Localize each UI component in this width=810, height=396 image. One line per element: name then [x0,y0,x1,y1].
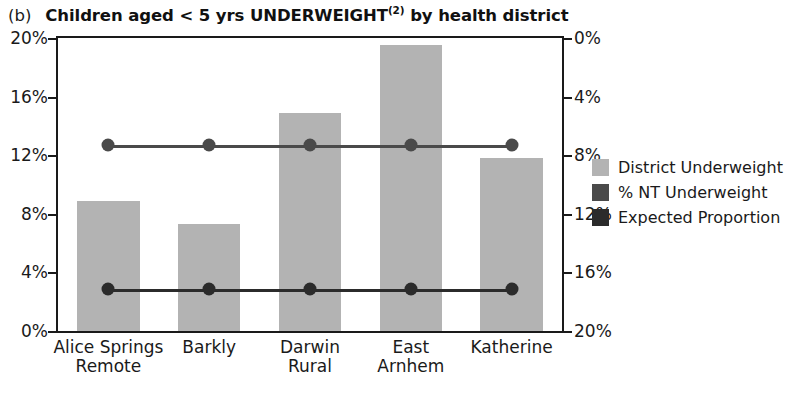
y-tick-mark-left [48,331,56,333]
legend-item: District Underweight [592,155,806,180]
y-tick-mark-right [564,97,572,99]
legend-swatch-icon [592,209,609,226]
legend-item: Expected Proportion [592,205,806,230]
y-tick-mark-right [564,214,572,216]
y-tick-label-right: 16% [574,264,612,281]
y-tick-mark-right [564,155,572,157]
legend-item: % NT Underweight [592,180,806,205]
reference-marker-nt-underweight [203,138,216,151]
y-tick-label-left: 20% [4,30,48,47]
reference-marker-expected-proportion [404,282,417,295]
plot-area [56,36,564,333]
y-tick-label-left: 4% [4,264,48,281]
legend-swatch-icon [592,159,609,176]
reference-marker-nt-underweight [102,138,115,151]
y-tick-mark-right [564,272,572,274]
bar-katherine [480,158,542,331]
y-tick-mark-left [48,272,56,274]
y-tick-label-left: 12% [4,147,48,164]
y-tick-label-right: 0% [574,30,601,47]
x-tick-label: Katherine [439,338,584,357]
bar-alice-springs-remote [77,201,139,331]
y-tick-mark-left [48,214,56,216]
reference-marker-expected-proportion [102,282,115,295]
bar-barkly [178,224,240,331]
reference-marker-nt-underweight [404,138,417,151]
reference-marker-expected-proportion [203,282,216,295]
y-tick-mark-right [564,331,572,333]
legend-swatch-icon [592,184,609,201]
legend-label: % NT Underweight [618,183,768,202]
y-tick-mark-left [48,155,56,157]
y-tick-mark-right [564,38,572,40]
legend-label: District Underweight [618,158,783,177]
reference-marker-expected-proportion [304,282,317,295]
y-tick-label-left: 16% [4,89,48,106]
y-tick-label-left: 8% [4,206,48,223]
legend-label: Expected Proportion [618,208,780,227]
y-tick-mark-left [48,38,56,40]
reference-marker-nt-underweight [304,138,317,151]
y-tick-label-right: 4% [574,89,601,106]
chart-canvas: 0%4%8%12%16%20% 20%16%12%8%4%0% Alice Sp… [0,0,600,396]
reference-marker-nt-underweight [505,138,518,151]
y-tick-mark-left [48,97,56,99]
reference-marker-expected-proportion [505,282,518,295]
chart-legend: District Underweight% NT UnderweightExpe… [592,155,806,230]
